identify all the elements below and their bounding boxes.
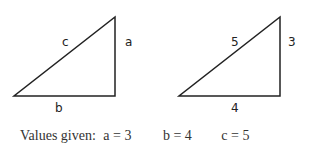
triangle-diagram: c a b 5 3 4 [0,0,309,149]
label-hypotenuse: c [62,35,69,49]
caption-prefix: Values given: [20,128,96,144]
label-base: 4 [231,101,239,115]
value-b: b = 4 [163,128,192,144]
value-c: c = 5 [221,128,249,144]
values-caption: Values given: a = 3 b = 4 c = 5 [20,128,249,144]
triangle-symbolic: c a b [14,17,132,115]
label-vertical: 3 [288,35,296,49]
label-hypotenuse: 5 [231,35,239,49]
triangle-shape [14,17,115,96]
value-a: a = 3 [103,128,131,144]
label-base: b [55,101,63,115]
triangle-shape [179,17,280,96]
triangle-numeric: 5 3 4 [179,17,296,115]
label-vertical: a [125,35,132,49]
